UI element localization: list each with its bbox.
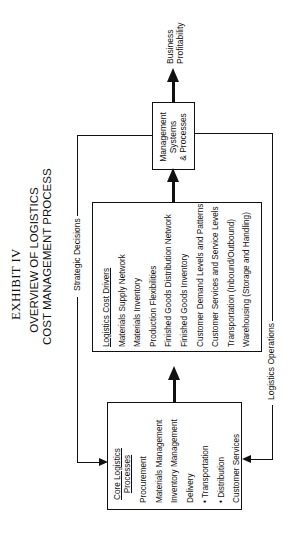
core-processes-heading: Core Logistics Processes bbox=[113, 445, 133, 503]
list-item: Customer Demand Levels and Patterns bbox=[193, 204, 209, 347]
arrow-shaft-2 bbox=[172, 180, 175, 203]
list-item: Procurement bbox=[136, 419, 152, 503]
strategic-line-top bbox=[77, 135, 153, 136]
list-item: Delivery bbox=[183, 419, 199, 503]
strategic-line-bottom bbox=[77, 462, 99, 463]
core-processes-list: Core Logistics Processes Procurement Mat… bbox=[113, 419, 245, 503]
business-profitability-label: Business Profitability bbox=[165, 22, 185, 64]
operations-line-lower bbox=[272, 405, 273, 460]
operations-line-upper bbox=[272, 133, 273, 345]
list-item: Inventory Management bbox=[167, 419, 183, 503]
strategic-line-lower bbox=[77, 297, 78, 463]
cost-drivers-heading: Logistics Cost Drivers bbox=[99, 204, 115, 347]
output-arrow-shaft bbox=[172, 80, 175, 103]
logistics-operations-label: Logistics Operations bbox=[266, 321, 276, 402]
core-processes-box: Core Logistics Processes Procurement Mat… bbox=[107, 402, 242, 510]
management-systems-box: Management Systems & Processes bbox=[152, 102, 195, 170]
arrow-shaft-3 bbox=[173, 378, 176, 403]
list-item: Materials Supply Network bbox=[115, 204, 131, 347]
list-item: Finished Goods Distribution Network bbox=[161, 204, 177, 347]
title-line-2: COST MANAGEMENT PROCESS bbox=[41, 175, 54, 345]
list-item: Materials Management bbox=[152, 419, 168, 503]
list-item: Materials Inventory bbox=[130, 204, 146, 347]
arrow-up-icon bbox=[168, 366, 180, 380]
exhibit-label: EXHIBIT IV bbox=[8, 248, 24, 320]
strategic-decisions-label: Strategic Decisions bbox=[72, 216, 82, 293]
title-line-1: OVERVIEW OF LOGISTICS bbox=[28, 175, 41, 345]
list-item: Production Flexibilities bbox=[146, 204, 162, 347]
list-item: Customer Services and Service Levels bbox=[208, 204, 224, 347]
cost-drivers-list: Logistics Cost Drivers Materials Supply … bbox=[99, 204, 255, 347]
operations-line-top bbox=[195, 133, 273, 134]
list-item: Transportation (Inbound/Outbound) bbox=[224, 204, 240, 347]
list-item: Customer Services bbox=[229, 419, 245, 503]
list-item: • Transportation bbox=[198, 419, 214, 503]
list-item: Warehousing (Storage and Handling) bbox=[239, 204, 255, 347]
list-item: • Distribution bbox=[214, 419, 230, 503]
operations-line-bottom bbox=[251, 459, 273, 460]
cost-drivers-box: Logistics Cost Drivers Materials Supply … bbox=[92, 202, 262, 352]
arrow-up-icon bbox=[167, 168, 179, 182]
list-item: Finished Goods Inventory bbox=[177, 204, 193, 347]
diagram-title: OVERVIEW OF LOGISTICS COST MANAGEMENT PR… bbox=[28, 175, 54, 345]
arrow-up-icon bbox=[167, 68, 179, 82]
